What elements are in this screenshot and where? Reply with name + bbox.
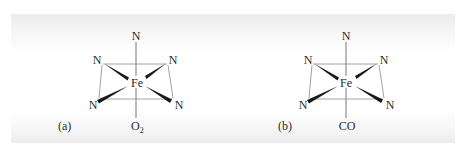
wedge-bond-lower-right-b xyxy=(355,86,383,103)
panel-label-a: (a) xyxy=(58,119,71,133)
atom-n-lower-right-b: N xyxy=(386,98,395,112)
atom-n-lower-right-a: N xyxy=(175,98,184,112)
ring-edge-left-a xyxy=(99,65,102,98)
ring-edge-left-b xyxy=(309,65,312,98)
atom-n-upper-right-a: N xyxy=(169,53,178,67)
wedge-bond-lower-left-b xyxy=(307,86,338,104)
heme-iron-coordination-diagram: N N N N N Fe O2 (a) N N N N N Fe CO xyxy=(0,0,467,147)
ring-edge-right-b xyxy=(379,65,384,98)
atom-n-top-b: N xyxy=(342,29,351,43)
panel-label-b: (b) xyxy=(278,119,292,133)
atom-n-upper-left-b: N xyxy=(304,53,313,67)
ring-edge-right-a xyxy=(168,65,173,98)
wedge-bond-upper-left-a xyxy=(104,64,129,81)
atom-fe-a: Fe xyxy=(131,76,143,90)
ligand-o2-symbol: O xyxy=(131,119,140,133)
atom-n-lower-left-b: N xyxy=(299,98,308,112)
atom-n-top-a: N xyxy=(132,29,141,43)
wedge-bond-upper-right-b xyxy=(355,64,377,80)
wedge-bond-upper-left-b xyxy=(314,64,339,81)
ligand-o2-a: O2 xyxy=(131,119,144,135)
ligand-o2-subscript: 2 xyxy=(140,126,144,135)
atom-fe-b: Fe xyxy=(340,76,352,90)
structure-a-fe-o2: N N N N N Fe O2 (a) xyxy=(58,29,184,135)
wedge-bond-lower-right-a xyxy=(145,86,172,103)
wedge-bond-lower-left-a xyxy=(97,86,128,104)
ligand-co-b: CO xyxy=(339,119,356,133)
atom-n-lower-left-a: N xyxy=(89,98,98,112)
atom-n-upper-left-a: N xyxy=(93,53,102,67)
wedge-bond-upper-right-a xyxy=(145,64,166,80)
structure-b-fe-co: N N N N N Fe CO (b) xyxy=(278,29,395,133)
atom-n-upper-right-b: N xyxy=(380,53,389,67)
